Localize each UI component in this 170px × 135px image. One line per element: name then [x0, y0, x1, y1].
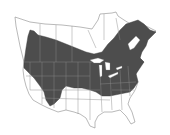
north-america-map — [0, 0, 170, 135]
lake-huron — [105, 62, 110, 70]
range-map — [0, 0, 170, 135]
